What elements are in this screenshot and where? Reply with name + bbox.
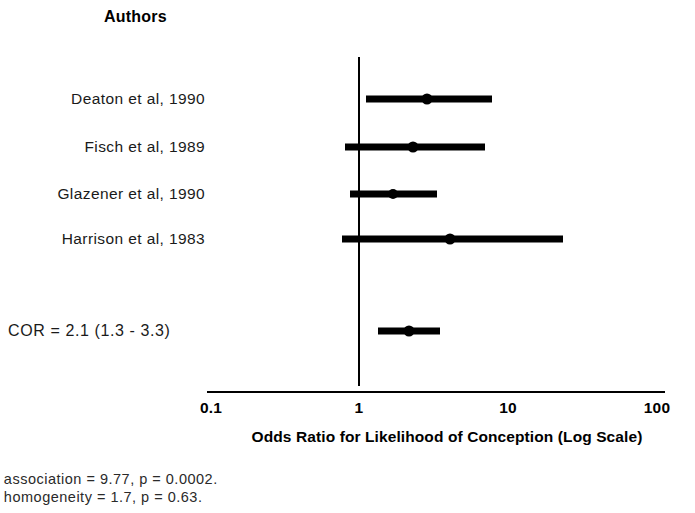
study-label-glazener: Glazener et al, 1990 (57, 185, 205, 203)
x-axis-tick-100: 100 (644, 399, 670, 417)
study-label-fisch: Fisch et al, 1989 (84, 138, 205, 156)
point-estimate-marker-deaton (422, 94, 433, 105)
forest-plot-figure: Authors Deaton et al, 1990 Fisch et al, … (0, 0, 695, 513)
x-axis-tick-0.1: 0.1 (200, 399, 222, 417)
point-estimate-marker-glazener (388, 189, 398, 199)
summary-label-cor: COR = 2.1 (1.3 - 3.3) (8, 322, 170, 340)
point-estimate-marker-summary (404, 326, 415, 337)
x-axis-tick-10: 10 (499, 399, 517, 417)
footnote-association: r association = 9.77, p = 0.0002. (0, 471, 218, 487)
study-label-deaton: Deaton et al, 1990 (71, 90, 205, 108)
footnote-homogeneity: r homogeneity = 1.7, p = 0.63. (0, 489, 202, 505)
x-axis-tick-1: 1 (355, 399, 364, 417)
x-axis-line (207, 391, 665, 393)
point-estimate-marker-harrison (445, 234, 456, 245)
study-label-harrison: Harrison et al, 1983 (62, 230, 205, 248)
point-estimate-marker-fisch (408, 142, 419, 153)
authors-column-header: Authors (104, 8, 167, 26)
x-axis-title: Odds Ratio for Likelihood of Conception … (252, 428, 643, 446)
null-reference-line (358, 57, 360, 386)
